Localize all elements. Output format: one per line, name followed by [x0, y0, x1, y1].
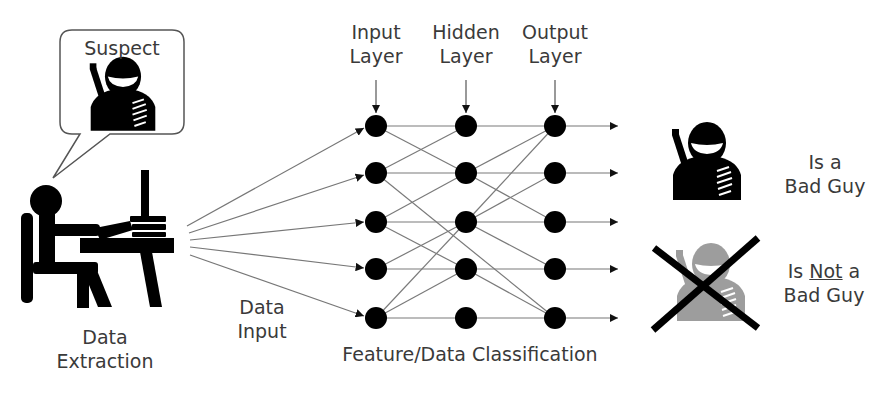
- layer-label-output: Output Layer: [510, 20, 600, 68]
- caption-line1: Data: [40, 325, 170, 349]
- result-line1: Is Not a: [774, 259, 874, 283]
- caption-line2: Extraction: [40, 349, 170, 373]
- hidden-layer-nodes: [455, 115, 477, 329]
- data-input-arrows: [187, 128, 364, 316]
- suspect-text: Suspect: [84, 37, 160, 59]
- person-at-computer-icon: [21, 170, 174, 308]
- output-layer-nodes: [544, 115, 566, 329]
- layer-label-input: Input Layer: [336, 20, 416, 68]
- data-extraction-caption: Data Extraction: [40, 325, 170, 373]
- caption-line1: Data: [222, 295, 302, 319]
- input-layer-nodes: [365, 115, 387, 329]
- result-positive-label: Is a Bad Guy: [780, 150, 870, 198]
- suspect-label: Suspect: [62, 36, 182, 60]
- text-post: a: [843, 260, 861, 282]
- caption-text: Feature/Data Classification: [342, 343, 597, 365]
- layer-label-line2: Layer: [510, 44, 600, 68]
- result-negative-label: Is Not a Bad Guy: [774, 259, 874, 307]
- layer-label-line2: Layer: [421, 44, 511, 68]
- classification-caption: Feature/Data Classification: [320, 342, 620, 366]
- text-not-underlined: Not: [809, 260, 842, 282]
- layer-label-line1: Hidden: [421, 20, 511, 44]
- layer-pointer-arrows: [376, 80, 555, 113]
- bad-guy-icon: [672, 122, 741, 200]
- layer-label-line1: Input: [336, 20, 416, 44]
- result-line2: Bad Guy: [780, 174, 870, 198]
- result-line2: Bad Guy: [774, 283, 874, 307]
- output-arrows: [566, 126, 618, 318]
- layer-label-line1: Output: [510, 20, 600, 44]
- layer-label-hidden: Hidden Layer: [421, 20, 511, 68]
- text-pre: Is: [788, 260, 810, 282]
- layer-label-line2: Layer: [336, 44, 416, 68]
- result-line1: Is a: [780, 150, 870, 174]
- data-input-caption: Data Input: [222, 295, 302, 343]
- caption-line2: Input: [222, 319, 302, 343]
- suspect-crossed-out-icon: [653, 238, 758, 330]
